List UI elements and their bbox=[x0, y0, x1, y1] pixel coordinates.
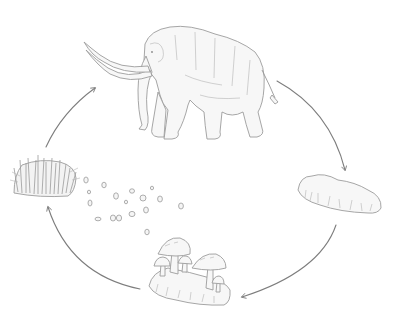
grass-tuft-icon bbox=[10, 155, 80, 197]
arrow-fungi-to-grass bbox=[48, 207, 140, 289]
arrow-grass-to-mammoth bbox=[46, 88, 95, 147]
nutrient-cycle-diagram bbox=[0, 0, 394, 320]
dung-icon bbox=[298, 175, 381, 213]
arrow-dung-to-fungi bbox=[242, 225, 336, 297]
mushrooms-icon bbox=[149, 238, 230, 305]
arrow-mammoth-to-dung bbox=[277, 81, 345, 170]
mammoth-icon bbox=[84, 26, 278, 139]
seeds-icon bbox=[84, 177, 184, 235]
